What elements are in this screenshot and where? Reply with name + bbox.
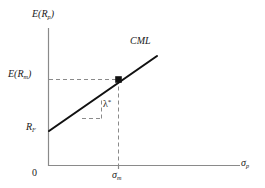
slope-lambda-label: λ* <box>103 99 111 109</box>
sigma-p-subscript: p <box>246 162 249 169</box>
lambda-star: * <box>108 98 112 106</box>
risk-free-rate-label: RF <box>26 122 36 132</box>
y-axis-title-close: ) <box>51 8 54 19</box>
y-tick-main: E(R <box>8 68 24 79</box>
y-tick-subscript: m <box>24 73 28 80</box>
risk-free-subscript: F <box>32 126 36 133</box>
y-axis-title: E(Rp) <box>32 9 54 19</box>
market-portfolio-marker <box>115 76 122 83</box>
sigma-m-subscript: m <box>117 174 121 181</box>
x-tick-label-sigma-m: σm <box>112 170 121 180</box>
y-axis-title-subscript: p <box>48 13 51 20</box>
y-tick-label-expected-market-return: E(Rm) <box>8 69 31 79</box>
cml-line <box>49 56 157 131</box>
origin-label: 0 <box>32 168 37 178</box>
cml-label: CML <box>130 36 151 46</box>
y-axis-title-main: E(R <box>32 8 48 19</box>
cml-diagram <box>0 0 265 188</box>
x-axis-title: σp <box>241 158 249 168</box>
figure-canvas: E(Rp) E(Rm) RF CML λ* 0 σm σp <box>0 0 265 188</box>
y-tick-close: ) <box>28 68 31 79</box>
